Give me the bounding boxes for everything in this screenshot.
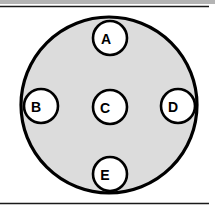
node-a: A bbox=[93, 21, 127, 55]
top-gray-band bbox=[0, 0, 215, 4]
node-label-e: E bbox=[100, 167, 109, 183]
circle-diagram: ABCDE bbox=[0, 0, 215, 213]
node-label-b: B bbox=[31, 99, 41, 115]
node-circle-e bbox=[93, 157, 127, 191]
diagram-canvas: ABCDE bbox=[0, 0, 215, 213]
node-label-a: A bbox=[101, 31, 111, 47]
node-c: C bbox=[93, 90, 127, 124]
node-e: E bbox=[93, 157, 127, 191]
node-label-c: C bbox=[100, 100, 110, 116]
node-label-d: D bbox=[168, 99, 178, 115]
node-b: B bbox=[24, 89, 58, 123]
node-d: D bbox=[161, 89, 195, 123]
